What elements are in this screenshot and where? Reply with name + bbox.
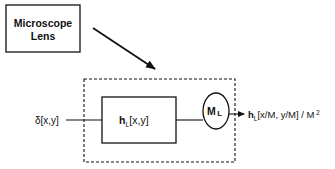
diagram-canvas: Microscope Lens δ[x,y] hL[x,y] ML [0,0,335,169]
output-label: hL[x/M, y/M] / M2 [248,109,320,122]
microscope-lens-label-line1: Microscope [14,17,73,29]
lens-to-system-arrow [93,28,155,69]
input-label: δ[x,y] [35,115,59,126]
microscope-lens-label-line2: Lens [31,30,56,42]
microscope-lens-box: Microscope Lens [6,5,80,52]
impulse-response-label: hL[x,y] [119,114,149,128]
magnification-ellipse: ML [203,93,229,129]
impulse-response-box: hL[x,y] [102,97,176,143]
